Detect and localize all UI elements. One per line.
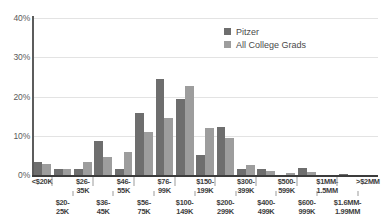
- x-axis-category: $76-99K: [154, 175, 174, 223]
- bar-pitzer: [135, 113, 144, 175]
- y-axis-tick-label: 40%: [14, 13, 30, 23]
- x-axis-labels: <$20K$20-25K$26-35K$36-45K$46-55K$56-75K…: [32, 175, 378, 223]
- x-axis-tick-label: $300-399K: [237, 178, 255, 195]
- bar-all-college-grads: [144, 132, 153, 175]
- bar-group: [32, 18, 52, 175]
- bar-group: [358, 18, 378, 175]
- x-axis-tick-label: $56-75K: [137, 199, 151, 216]
- x-axis-category: >$2MM: [358, 175, 378, 223]
- bar-groups: [32, 18, 378, 175]
- x-axis-category: $100-149K: [175, 175, 195, 223]
- x-axis-tick-label: $400-499K: [257, 199, 275, 216]
- bar-group: [195, 18, 215, 175]
- x-axis-tick-label: $100-149K: [176, 199, 194, 216]
- plot-area: [32, 18, 378, 175]
- bar-pitzer: [176, 99, 185, 175]
- bar-group: [175, 18, 195, 175]
- x-axis-tick-label: >$2MM: [356, 178, 380, 187]
- legend: PitzerAll College Grads: [224, 25, 306, 51]
- x-axis-category: $26-35K: [73, 175, 93, 223]
- x-axis-category: $200-299K: [215, 175, 235, 223]
- legend-item: Pitzer: [224, 25, 306, 38]
- bar-all-college-grads: [42, 164, 51, 175]
- bar-pitzer: [156, 79, 165, 175]
- x-axis-tick-label: $26-35K: [76, 178, 90, 195]
- x-axis-tick-label: $500-599K: [278, 178, 296, 195]
- bar-all-college-grads: [225, 138, 234, 175]
- x-axis-category: $20-25K: [52, 175, 72, 223]
- x-axis-category: $1.6MM-1.99MM: [337, 175, 357, 223]
- bar-group: [317, 18, 337, 175]
- bar-group: [73, 18, 93, 175]
- x-axis-tick-label: $200-299K: [217, 199, 235, 216]
- x-axis-tick-label: $150-199K: [196, 178, 214, 195]
- x-axis-tick-label: $46-55K: [117, 178, 131, 195]
- bar-all-college-grads: [205, 128, 214, 175]
- x-axis-tick-label: $36-45K: [96, 199, 110, 216]
- x-axis-category: <$20K: [32, 175, 52, 223]
- bar-group: [337, 18, 357, 175]
- bar-pitzer: [94, 141, 103, 175]
- y-axis-line: [32, 16, 34, 175]
- legend-swatch-icon: [224, 28, 231, 35]
- bar-group: [93, 18, 113, 175]
- x-axis-category: $400-499K: [256, 175, 276, 223]
- x-axis-tick-label: $20-25K: [56, 199, 70, 216]
- y-axis-tick-label: 10%: [14, 131, 30, 141]
- x-axis-category: $500-599K: [276, 175, 296, 223]
- bar-all-college-grads: [124, 152, 133, 175]
- x-axis-tick-label: $76-99K: [157, 178, 171, 195]
- bar-all-college-grads: [185, 86, 194, 175]
- income-distribution-bar-chart: 0%10%20%30%40% PitzerAll College Grads <…: [0, 0, 382, 223]
- bar-group: [154, 18, 174, 175]
- bar-group: [52, 18, 72, 175]
- bar-all-college-grads: [83, 162, 92, 175]
- x-axis-category: $56-75K: [134, 175, 154, 223]
- bar-pitzer: [196, 155, 205, 175]
- legend-label: Pitzer: [236, 27, 259, 37]
- x-axis-category: $46-55K: [113, 175, 133, 223]
- bar-group: [134, 18, 154, 175]
- x-axis-tick-label: $1MM-1.5MM: [316, 178, 338, 195]
- y-axis: 0%10%20%30%40%: [0, 0, 30, 223]
- y-axis-tick-label: 20%: [14, 92, 30, 102]
- x-axis-category: $150-199K: [195, 175, 215, 223]
- bar-pitzer: [33, 162, 42, 175]
- x-axis-category: $300-399K: [236, 175, 256, 223]
- y-axis-tick-label: 30%: [14, 52, 30, 62]
- legend-swatch-icon: [224, 41, 231, 48]
- bar-group: [113, 18, 133, 175]
- y-axis-tick-label: 0%: [18, 170, 30, 180]
- bar-all-college-grads: [164, 118, 173, 175]
- bar-all-college-grads: [103, 157, 112, 175]
- x-axis-tick-label: $600-999K: [298, 199, 316, 216]
- x-axis-tick-label: <$20K: [32, 178, 53, 187]
- bar-pitzer: [217, 127, 226, 175]
- x-axis-category: $600-999K: [297, 175, 317, 223]
- legend-label: All College Grads: [236, 40, 306, 50]
- legend-item: All College Grads: [224, 38, 306, 51]
- x-axis-category: $36-45K: [93, 175, 113, 223]
